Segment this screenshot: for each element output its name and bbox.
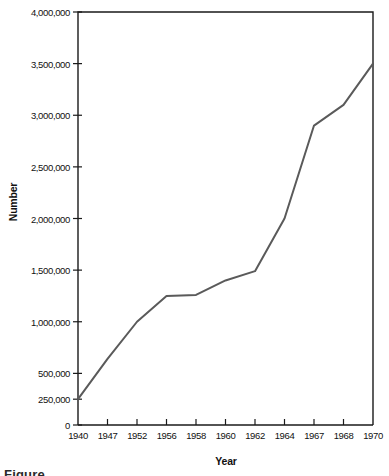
figure-caption: Figure (4, 467, 45, 476)
plot-frame (78, 12, 373, 425)
data-series-line (78, 64, 373, 400)
figure-container: 4,000,0003,500,0003,000,0002,500,0002,00… (0, 0, 389, 476)
line-chart-plot (0, 0, 389, 476)
x-axis-title: Year (78, 455, 374, 467)
y-axis-title: Number (7, 167, 19, 237)
x-axis-ticks (108, 419, 344, 425)
